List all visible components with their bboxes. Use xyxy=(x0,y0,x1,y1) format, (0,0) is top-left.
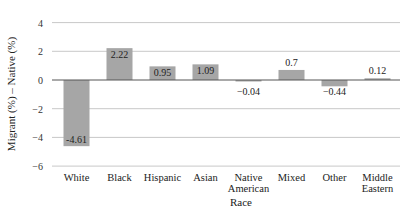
x-category-label: Native xyxy=(235,172,263,183)
x-category-label: White xyxy=(64,172,90,183)
gridlines xyxy=(52,23,400,167)
y-tick-label: 2 xyxy=(38,46,43,57)
x-category-label: Eastern xyxy=(362,183,394,194)
value-label: −0.44 xyxy=(323,86,346,97)
x-category-label: Asian xyxy=(193,172,218,183)
x-axis-label: Race xyxy=(230,196,252,208)
x-category-label: Hispanic xyxy=(144,172,182,183)
x-category-label: Black xyxy=(107,172,132,183)
y-tick-label: 4 xyxy=(38,18,43,29)
x-category-label: American xyxy=(228,183,270,194)
y-tick-label: 0 xyxy=(38,75,43,86)
bars xyxy=(64,48,391,146)
x-axis-categories: WhiteBlackHispanicAsianNativeAmericanMix… xyxy=(64,172,394,194)
y-axis-ticks: 420−2−4−6 xyxy=(32,18,43,173)
chart-canvas: 420−2−4−6 -4.612.220.951.09−0.040.7−0.44… xyxy=(0,0,416,214)
value-label: 1.09 xyxy=(197,65,215,76)
value-label: 0.95 xyxy=(154,67,172,78)
value-label: -4.61 xyxy=(66,134,87,145)
x-category-label: Mixed xyxy=(278,172,306,183)
value-label: 0.7 xyxy=(285,57,298,68)
x-category-label: Other xyxy=(323,172,347,183)
y-tick-label: −6 xyxy=(32,161,43,172)
bar-chart: 420−2−4−6 -4.612.220.951.09−0.040.7−0.44… xyxy=(0,0,416,214)
value-label: 0.12 xyxy=(369,65,387,76)
y-axis-label: Migrant (%) – Native (%) xyxy=(5,37,18,152)
y-tick-label: −4 xyxy=(32,132,43,143)
bar xyxy=(279,70,305,80)
value-label: −0.04 xyxy=(237,86,260,97)
value-label: 2.22 xyxy=(111,49,129,60)
x-category-label: Middle xyxy=(362,172,393,183)
y-tick-label: −2 xyxy=(32,104,43,115)
